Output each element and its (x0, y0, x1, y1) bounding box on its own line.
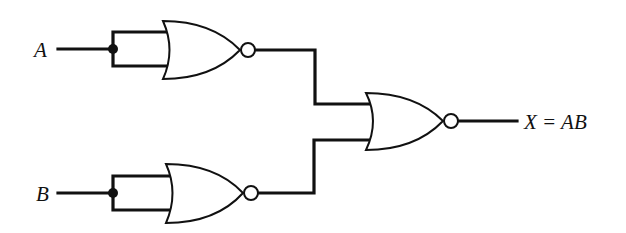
label-input-a: A (32, 38, 47, 62)
nor-gate-body-2 (166, 164, 243, 223)
logic-circuit-diagram: A B X = AB (0, 0, 626, 233)
inversion-bubble-2 (244, 186, 258, 200)
nor-gate-body-3 (366, 93, 443, 150)
wire-nor1-output (256, 50, 372, 104)
inversion-bubble-1 (241, 43, 255, 57)
nor-gate-b (58, 140, 372, 223)
nor-gate-output (366, 93, 517, 150)
nor-gate-body-1 (163, 21, 240, 79)
wire-b-branches (113, 176, 172, 210)
wire-a-branches (113, 32, 170, 66)
junction-dot-b (108, 188, 118, 198)
label-output-x: X = AB (523, 110, 587, 134)
inversion-bubble-3 (444, 114, 458, 128)
nor-gate-a (58, 21, 372, 104)
junction-dot-a (108, 44, 118, 54)
wire-nor2-output (259, 140, 372, 193)
label-input-b: B (36, 182, 49, 206)
